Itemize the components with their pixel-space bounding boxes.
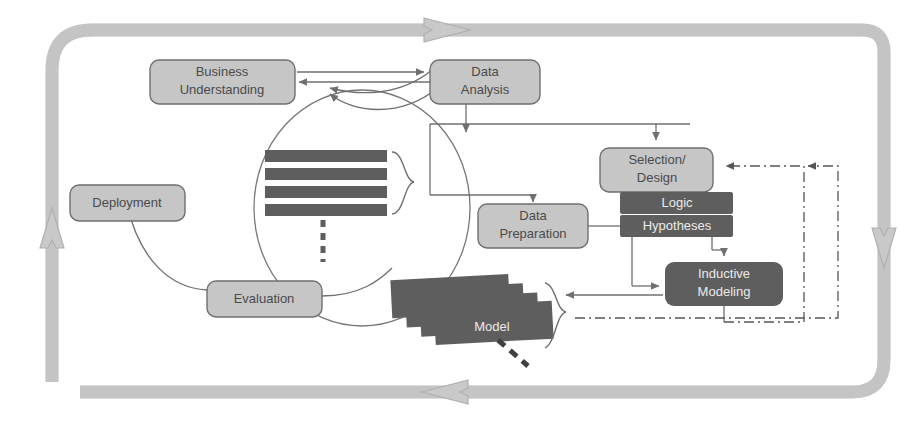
model-stack-icon: Model (390, 274, 566, 366)
node-label-inductive-modeling-1: Inductive (698, 266, 750, 281)
node-label-selection-design-1: Selection/ (628, 152, 685, 167)
node-hypotheses[interactable]: Hypotheses (620, 215, 733, 237)
data-table-icon (265, 150, 414, 262)
node-label-selection-design-2: Design (637, 170, 677, 185)
node-label-data-analysis-1: Data (471, 64, 499, 79)
edge-curve-to-bu (330, 70, 432, 93)
node-label-hypotheses: Hypotheses (643, 218, 712, 233)
node-label-deployment: Deployment (92, 195, 162, 210)
node-data-preparation[interactable]: Data Preparation (478, 204, 588, 248)
node-data-analysis[interactable]: Data Analysis (430, 60, 540, 104)
node-label-data-preparation-2: Preparation (499, 226, 566, 241)
node-label-inductive-modeling-2: Modeling (698, 284, 751, 299)
node-business-understanding[interactable]: Business Understanding (150, 60, 295, 104)
loop-arrow-bottom-icon (422, 380, 468, 404)
node-selection-design[interactable]: Selection/ Design (600, 148, 713, 192)
node-inductive-modeling[interactable]: Inductive Modeling (665, 262, 783, 306)
node-label-evaluation: Evaluation (234, 291, 295, 306)
process-diagram: Model Business Understanding Data Analys… (0, 0, 914, 422)
edge-evaluation-to-model (322, 268, 392, 296)
loop-arrow-top-icon (424, 18, 470, 42)
node-label-business-understanding-1: Business (196, 64, 249, 79)
node-label-business-understanding-2: Understanding (180, 82, 265, 97)
node-evaluation[interactable]: Evaluation (207, 281, 322, 317)
node-label-data-analysis-2: Analysis (461, 82, 510, 97)
model-stack-label: Model (474, 319, 510, 334)
node-logic[interactable]: Logic (620, 192, 733, 214)
diagram-canvas: Model Business Understanding Data Analys… (0, 0, 914, 422)
node-label-data-preparation-1: Data (519, 208, 547, 223)
edge-curve2-to-bu (330, 86, 440, 110)
node-label-logic: Logic (661, 195, 693, 210)
node-deployment[interactable]: Deployment (70, 185, 185, 221)
